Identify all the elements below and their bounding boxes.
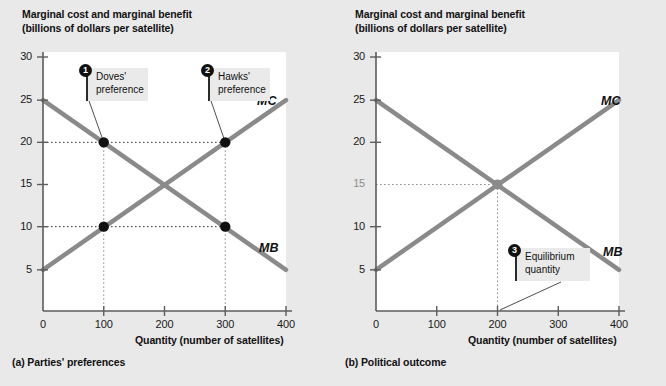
panel-a-ytick-label-30: 30 (8, 50, 32, 62)
panel-b-ytick-label-10: 10 (341, 220, 365, 232)
panel-a-callout-hawks: Hawks' preference (208, 68, 270, 101)
panel-a-callout-doves-line2: preference (96, 84, 144, 95)
panel-a-x-axis-title: Quantity (number of satellites) (135, 334, 284, 346)
panel-a-ytick-label-5: 5 (8, 263, 32, 275)
panel-a-caption: (a) Parties' preferences (12, 356, 125, 368)
panel-b-caption: (b) Political outcome (345, 356, 446, 368)
panel-b-xtick-label-100: 100 (420, 318, 454, 330)
panel-a-callout-doves: Doves' preference (86, 68, 148, 101)
panel-b-leader-3 (500, 282, 561, 310)
marker-doves-20 (99, 137, 109, 147)
panel-a-ytick-label-15: 15 (8, 177, 32, 189)
marker-hawks-10 (220, 221, 230, 231)
panel-a-callout-doves-number: 1 (79, 64, 92, 77)
panel-b-mb-label: MB (603, 245, 623, 259)
panel-b-callout-equilibrium: Equilibrium quantity (515, 248, 590, 281)
panel-b-xtick-label-200: 200 (481, 318, 515, 330)
panel-b: Marginal cost and marginal benefit (bill… (333, 0, 666, 386)
panel-a-xtick-label-400: 400 (269, 318, 303, 330)
marker-doves-10 (99, 221, 109, 231)
panel-b-callout-equilibrium-number: 3 (508, 244, 521, 257)
panel-a-callout-hawks-number: 2 (201, 64, 214, 77)
panel-b-xtick-label-400: 400 (602, 318, 636, 330)
panel-b-ytick-label-30: 30 (341, 50, 365, 62)
panel-b-callout-equilibrium-line2: quantity (525, 264, 560, 275)
panel-b-ytick-label-25: 25 (341, 93, 365, 105)
panel-a-mb-label: MB (259, 241, 279, 255)
panel-a-callout-hawks-line2: preference (218, 84, 266, 95)
panel-b-mc-label: MC (601, 94, 621, 108)
panel-b-x-axis-title: Quantity (number of satellites) (468, 334, 617, 346)
panel-a-xtick-label-100: 100 (87, 318, 121, 330)
panel-a-xtick-label-0: 0 (26, 318, 60, 330)
panel-b-callout-equilibrium-line1: Equilibrium (525, 251, 574, 262)
marker-hawks-20 (220, 137, 230, 147)
panel-a-ytick-label-25: 25 (8, 93, 32, 105)
panel-a-xtick-label-300: 300 (208, 318, 242, 330)
panel-b-ytick-label-5: 5 (341, 263, 365, 275)
figure-container: Marginal cost and marginal benefit (bill… (0, 0, 666, 386)
panel-a-xtick-label-200: 200 (148, 318, 182, 330)
panel-b-xtick-label-300: 300 (541, 318, 575, 330)
panel-a-leader-2 (210, 98, 225, 142)
panel-a-callout-hawks-line1: Hawks' (218, 71, 250, 82)
panel-b-ytick-label-15: 15 (341, 177, 365, 189)
marker-equilibrium (493, 180, 503, 190)
panel-a-ytick-label-20: 20 (8, 135, 32, 147)
panel-b-ytick-label-20: 20 (341, 135, 365, 147)
panel-a-callout-doves-line1: Doves' (96, 71, 126, 82)
panel-a: Marginal cost and marginal benefit (bill… (0, 0, 333, 386)
panel-a-ytick-label-10: 10 (8, 220, 32, 232)
panel-b-xtick-label-0: 0 (359, 318, 393, 330)
